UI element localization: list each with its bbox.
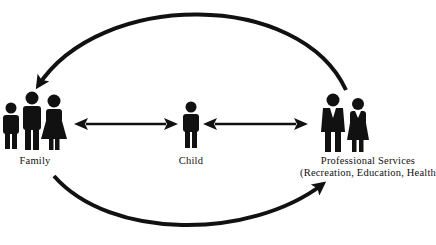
professional-services-label: Professional Services (Recreation, Educa… bbox=[300, 155, 436, 179]
family-child-figure-icon bbox=[3, 103, 19, 150]
arc-arrow-family-to-professional bbox=[54, 176, 323, 225]
professional-woman-icon bbox=[347, 98, 369, 152]
family-group-icon bbox=[3, 92, 67, 151]
professional-services-subtitle: (Recreation, Education, Health) bbox=[300, 167, 436, 179]
family-father-figure-icon bbox=[23, 92, 41, 151]
family-mother-figure-icon bbox=[41, 95, 67, 151]
professionals-icon bbox=[321, 94, 369, 153]
double-arrow-child-professional bbox=[203, 118, 308, 130]
family-label: Family bbox=[0, 155, 70, 167]
diagram-canvas: Family Child Professional Services (Recr… bbox=[0, 0, 436, 245]
diagram-graphics bbox=[0, 0, 436, 245]
professional-man-icon bbox=[321, 94, 345, 153]
arc-arrow-professional-to-family bbox=[38, 14, 346, 90]
professional-services-title: Professional Services bbox=[300, 155, 436, 167]
child-label: Child bbox=[160, 155, 222, 167]
double-arrow-family-child bbox=[74, 118, 178, 130]
child-icon bbox=[183, 102, 199, 149]
